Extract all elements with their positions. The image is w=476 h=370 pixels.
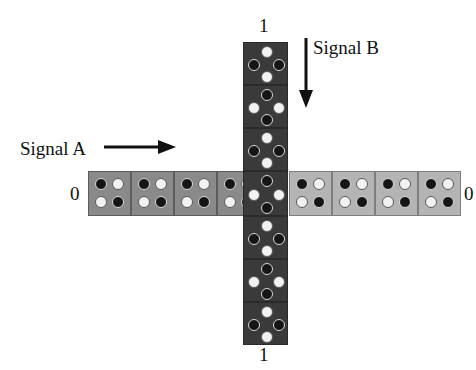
label-left-bit: 0 [70,184,80,203]
dot-left [248,59,260,71]
dot-bottom-left [138,196,150,208]
dot-top-left [138,178,150,190]
dot-bottom [261,245,273,257]
dot-left [248,102,260,114]
dot-top-right [399,178,411,190]
dot-top-right [442,178,454,190]
dot-top-left [425,178,437,190]
dot-bottom-right [112,196,124,208]
cell-horizontal-0 [88,171,131,216]
dot-bottom-left [224,196,236,208]
cell-horizontal-6 [332,171,375,216]
cell-vertical-5 [243,259,288,302]
dot-top [261,263,273,275]
dot-bottom [261,114,273,126]
dot-top [261,132,273,144]
dot-right [273,145,285,157]
figure-canvas: 1 1 0 0 Signal A Signal B [0,0,476,370]
dot-top-right [155,178,167,190]
dot-top [261,175,273,187]
dot-left [248,319,260,331]
cell-horizontal-5 [289,171,332,216]
dot-top [261,220,273,232]
cell-vertical-0 [243,42,288,85]
dot-top [261,46,273,58]
dot-bottom [261,157,273,169]
dot-top-right [313,178,325,190]
dot-top [261,89,273,101]
dot-top-left [95,178,107,190]
dot-top-left [181,178,193,190]
cell-horizontal-8 [418,171,461,216]
cell-vertical-4 [243,216,288,259]
signal-a-arrow [104,137,176,157]
cell-vertical-1 [243,85,288,128]
dot-bottom-right [399,196,411,208]
dot-right [273,319,285,331]
cell-vertical-6 [243,302,288,345]
dot-top-right [112,178,124,190]
dot-right [273,102,285,114]
dot-bottom-right [442,196,454,208]
cell-vertical-2 [243,128,288,171]
dot-top-right [198,178,210,190]
dot-bottom [261,288,273,300]
dot-bottom [261,202,273,214]
cell-center [243,171,288,216]
dot-left [248,145,260,157]
cell-horizontal-2 [174,171,217,216]
dot-bottom-left [339,196,351,208]
dot-top-right [356,178,368,190]
dot-right [273,233,285,245]
label-top-bit: 1 [259,16,269,35]
dot-right [273,189,285,201]
dot-top-left [339,178,351,190]
dot-top-left [224,178,236,190]
label-bottom-bit: 1 [259,345,269,364]
dot-bottom-left [382,196,394,208]
dot-bottom [261,331,273,343]
dot-left [248,189,260,201]
label-right-bit: 0 [464,184,474,203]
dot-bottom-right [313,196,325,208]
cell-horizontal-1 [131,171,174,216]
dot-bottom-right [155,196,167,208]
dot-left [248,233,260,245]
dot-top-left [296,178,308,190]
dot-bottom-right [198,196,210,208]
dot-bottom-left [425,196,437,208]
signal-b-arrow [296,38,316,108]
cell-horizontal-7 [375,171,418,216]
dot-top [261,306,273,318]
label-signal-a: Signal A [20,139,86,158]
dot-bottom-left [95,196,107,208]
label-signal-b: Signal B [313,38,379,57]
dot-left [248,276,260,288]
dot-right [273,276,285,288]
dot-bottom-right [356,196,368,208]
dot-bottom-left [296,196,308,208]
dot-right [273,59,285,71]
dot-top-left [382,178,394,190]
dot-bottom-left [181,196,193,208]
dot-bottom [261,71,273,83]
